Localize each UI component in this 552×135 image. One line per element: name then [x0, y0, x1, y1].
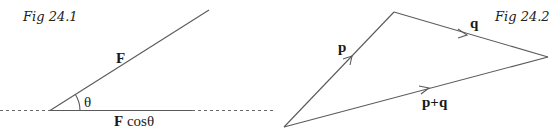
figure-24-2: Fig 24.2 p q p+q: [284, 9, 550, 127]
angle-arc: [75, 95, 80, 111]
vector-p-line: [284, 12, 394, 127]
component-label-f: F: [114, 113, 123, 129]
resultant-label: p+q: [422, 94, 448, 110]
vector-f-label: F: [116, 50, 125, 66]
vector-f-line: [50, 10, 209, 111]
figure-2-caption: Fig 24.2: [494, 9, 550, 24]
vector-pq-line: [284, 57, 548, 127]
figure-24-1: Fig 24.1 θ F F cosθ: [0, 9, 276, 129]
angle-theta-label: θ: [84, 94, 91, 110]
vector-q-arrowhead-icon: [458, 29, 467, 38]
vector-p-label: p: [338, 39, 346, 55]
figure-1-caption: Fig 24.1: [22, 9, 78, 24]
component-label-cos: cosθ: [123, 113, 154, 129]
vector-q-label: q: [470, 15, 479, 31]
component-label: F cosθ: [114, 113, 154, 129]
diagram-canvas: Fig 24.1 θ F F cosθ Fig 24.2 p q: [0, 0, 552, 135]
